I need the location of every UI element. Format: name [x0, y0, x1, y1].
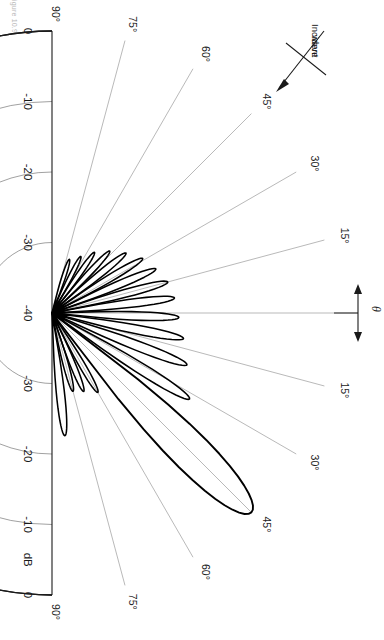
tick-label: -10 [22, 516, 34, 533]
tick-label: 90° [50, 6, 62, 22]
incident-wave-label-line2: wave [310, 34, 321, 57]
tick-label: 60° [200, 564, 212, 580]
tick-label: -10 [22, 93, 34, 110]
tick-label: dB [22, 553, 34, 567]
angular-gridline--45deg [52, 313, 251, 512]
tick-label: 60° [200, 46, 212, 62]
tick-label: 45° [261, 516, 273, 532]
tick-label: -20 [22, 446, 34, 463]
theta-arrowhead-up [354, 284, 362, 294]
radiation-pattern-curve [52, 251, 253, 514]
tick-label: -20 [22, 164, 34, 181]
polar-pattern-figure: Figure 10.9 0-10-20-30-40-30-20-10dB090°… [0, 0, 384, 640]
theta-annotation: θ [334, 284, 383, 342]
tick-label: 15° [339, 382, 351, 398]
tick-label: -30 [22, 234, 34, 251]
tick-label: -40 [22, 305, 34, 322]
incident-wave-arrowhead [276, 79, 289, 92]
grid-layer [0, 31, 334, 595]
angular-gridline--60deg [52, 313, 193, 557]
tick-label: 75° [127, 16, 139, 32]
theta-arrowhead-down [354, 332, 362, 342]
tick-label: 75° [127, 594, 139, 610]
incident-wave-annotation: Incident wave [276, 24, 326, 92]
tick-label: 30° [309, 455, 321, 471]
tick-label: 0 [22, 28, 34, 34]
tick-label: 15° [339, 228, 351, 244]
tick-label: 45° [261, 94, 273, 110]
tick-label: 30° [309, 156, 321, 172]
pattern-lobe-2 [52, 252, 95, 313]
angular-gridline--75deg [52, 313, 125, 585]
tick-label: 0 [22, 592, 34, 598]
tick-label: -30 [22, 375, 34, 392]
angular-gridline-30deg [52, 172, 296, 313]
tick-label: 90° [50, 604, 62, 620]
theta-label: θ [369, 306, 383, 312]
angular-gridlines [52, 41, 334, 586]
polar-plot-svg: 0-10-20-30-40-30-20-10dB090°75°60°45°30°… [0, 0, 384, 640]
